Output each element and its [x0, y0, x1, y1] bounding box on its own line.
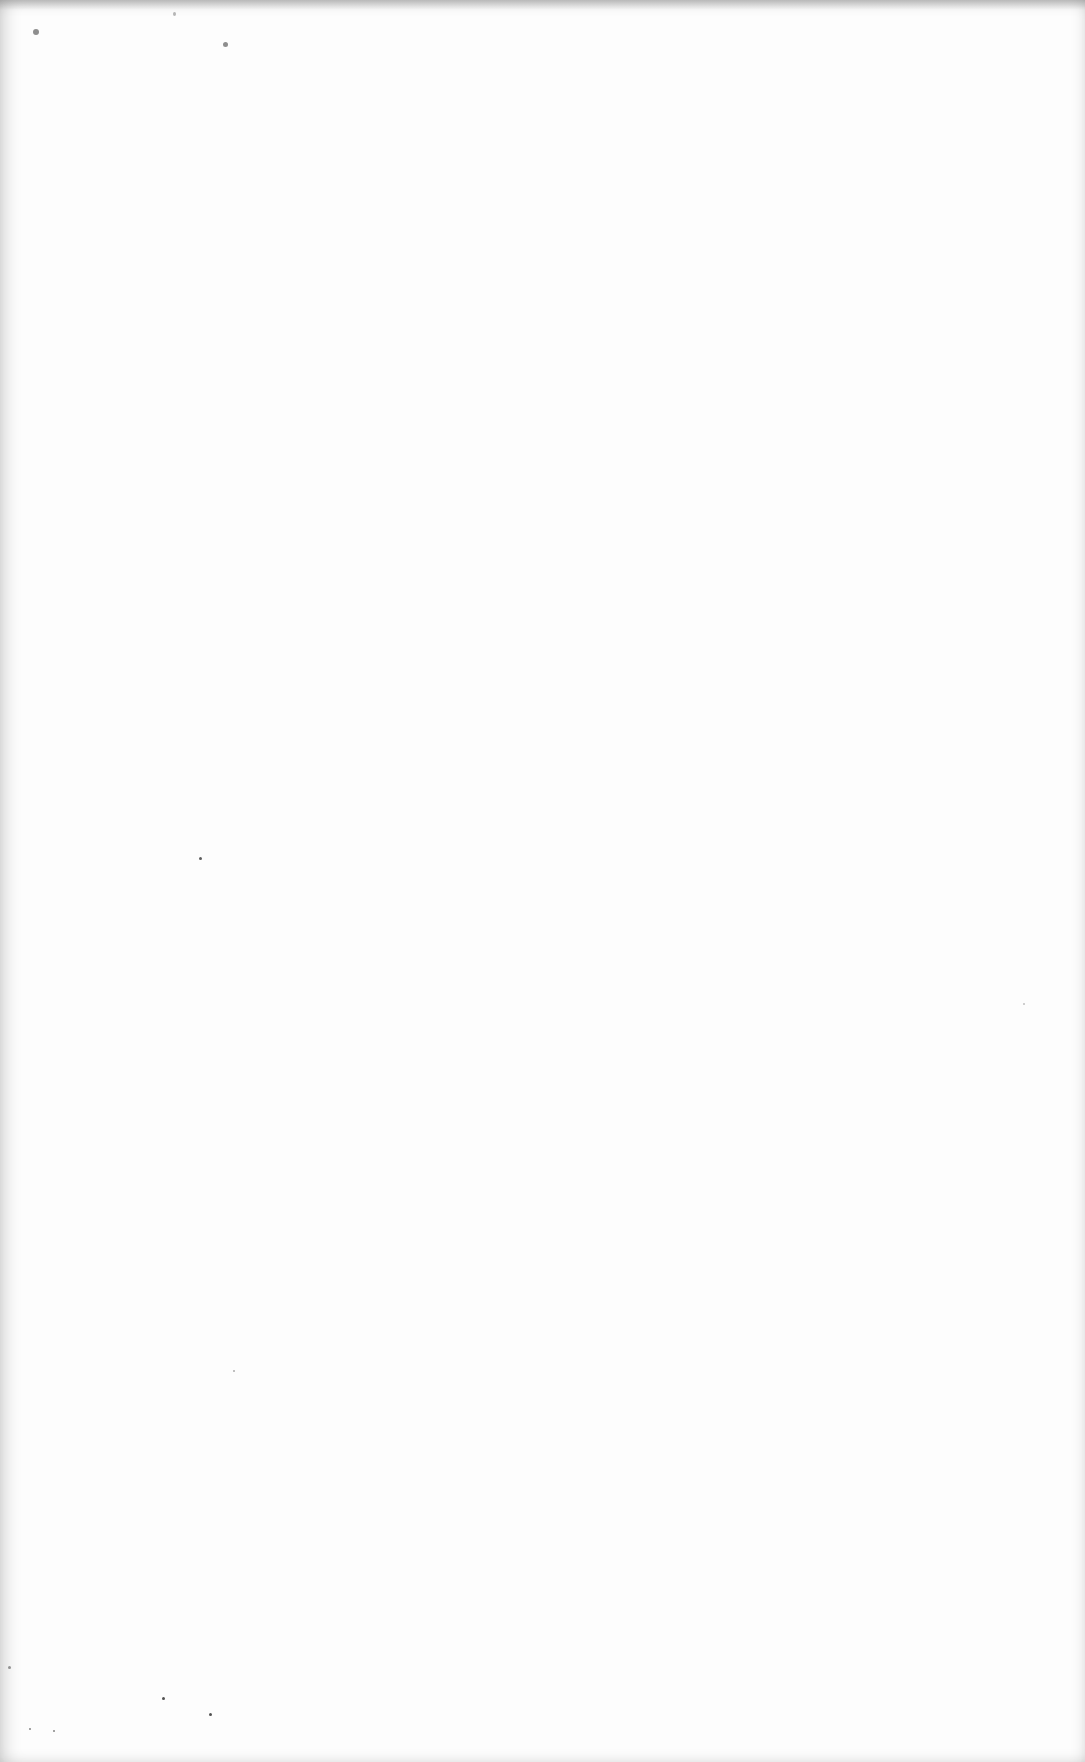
blank-scanned-page: [0, 0, 1085, 1762]
scan-speck: [1023, 1003, 1025, 1005]
scan-speck: [209, 1713, 212, 1716]
scan-speck: [53, 1730, 55, 1732]
scan-speck: [33, 29, 39, 35]
scan-speck: [29, 1728, 31, 1730]
scan-speck: [8, 1666, 11, 1669]
scan-speck: [199, 857, 202, 860]
scan-speck: [233, 1370, 235, 1372]
scan-speck: [173, 12, 176, 16]
scan-speck: [162, 1697, 165, 1700]
scan-speck: [223, 42, 228, 47]
page-top-edge-shadow: [0, 0, 1085, 10]
